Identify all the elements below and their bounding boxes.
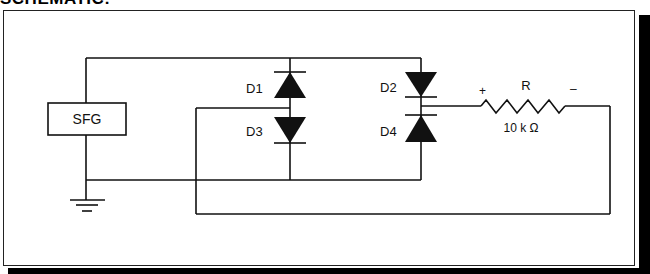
- diode-d3-icon: [274, 117, 306, 143]
- d2-label: D2: [380, 80, 397, 95]
- resistor-value: 10 k Ω: [504, 121, 539, 135]
- resistor-minus-label: –: [570, 82, 577, 96]
- resistor-label: R: [521, 78, 530, 93]
- resistor-zigzag: [481, 100, 565, 113]
- d1-label: D1: [246, 81, 263, 96]
- sfg-label: SFG: [73, 111, 102, 127]
- d3-label: D3: [246, 124, 263, 139]
- d4-label: D4: [380, 124, 397, 139]
- diode-d4-icon: [405, 115, 437, 142]
- resistor-plus-label: +: [479, 84, 486, 98]
- diode-d1-icon: [274, 72, 306, 98]
- ground-icon: [70, 200, 105, 211]
- circuit-diagram: SFG D1 D2 D3 D4 + R – 10 k Ω: [0, 0, 650, 274]
- diode-d2-icon: [405, 72, 437, 97]
